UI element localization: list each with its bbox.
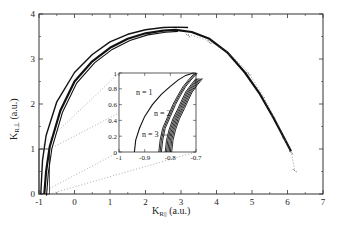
x-tick-label: -1 <box>35 197 43 207</box>
inset-y-tick-label: 1 <box>114 70 118 78</box>
x-tick-label: 5 <box>250 197 255 207</box>
y-axis-label: KR⊥ (a.u.) <box>8 98 21 140</box>
inset-y-tick-label: 0 <box>114 149 118 157</box>
inset-x-tick-label: -0.9 <box>139 154 151 162</box>
y-tick-label: 3 <box>31 54 36 64</box>
x-tick-label: 2 <box>143 197 148 207</box>
inset-y-tick-label: 0.8 <box>108 85 117 93</box>
inset-annotation-n2: n = 2 <box>154 109 171 118</box>
x-tick-label: 0 <box>72 197 77 207</box>
y-tick-label: 0 <box>31 189 36 199</box>
inset-x-tick-label: -0.7 <box>190 154 202 162</box>
y-tick-label: 2 <box>31 99 36 109</box>
y-tick-label: 1 <box>31 144 36 154</box>
chart: -101234567 01234 -1-0.9-0.8-0.700.20.40.… <box>0 0 341 228</box>
y-tick-label: 4 <box>31 9 36 19</box>
x-tick-label: 4 <box>214 197 219 207</box>
inset-x-tick-label: -0.8 <box>165 154 177 162</box>
inset-y-tick-label: 0.6 <box>108 101 117 109</box>
x-tick-label: 7 <box>321 197 326 207</box>
inset-y-tick-label: 0.4 <box>108 117 117 125</box>
x-axis-label: KR|| (a.u.) <box>152 205 190 218</box>
inset-x-tick-label: -1 <box>116 154 122 162</box>
inset-annotation-n3: n = 3 <box>142 130 159 139</box>
inset-annotation-n1: n = 1 <box>136 88 153 97</box>
x-tick-label: 6 <box>285 197 290 207</box>
x-tick-label: 1 <box>108 197 113 207</box>
inset-y-tick-label: 0.2 <box>108 133 117 141</box>
